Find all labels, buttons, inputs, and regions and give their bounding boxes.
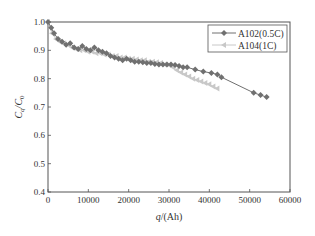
x-tick-label: 60000 bbox=[279, 195, 302, 205]
y-tick-label: 0.6 bbox=[34, 130, 46, 140]
legend-label-a102: A102(0.5C) bbox=[238, 29, 284, 40]
y-tick-label: 0.7 bbox=[34, 102, 46, 112]
capacity-retention-chart: 0100002000030000400005000060000 0.40.50.… bbox=[0, 0, 315, 236]
x-tick-label: 30000 bbox=[158, 195, 181, 205]
x-tick-label: 20000 bbox=[117, 195, 140, 205]
y-axis-label: Cq/C0 bbox=[13, 95, 26, 119]
legend-label-a104: A104(1C) bbox=[238, 41, 277, 52]
y-tick-label: 0.9 bbox=[34, 45, 46, 55]
y-tick-label: 1.0 bbox=[34, 17, 46, 27]
x-tick-label: 0 bbox=[46, 195, 51, 205]
y-tick-label: 0.4 bbox=[34, 187, 46, 197]
y-tick-label: 0.5 bbox=[34, 159, 46, 169]
x-axis-label: q/(Ah) bbox=[156, 211, 183, 223]
x-tick-label: 40000 bbox=[198, 195, 221, 205]
legend: A102(0.5C) A104(1C) bbox=[208, 25, 287, 52]
y-tick-label: 0.8 bbox=[34, 74, 46, 84]
x-axis-ticks: 0100002000030000400005000060000 bbox=[46, 189, 302, 205]
series-a104-1c- bbox=[45, 19, 219, 92]
x-tick-label: 10000 bbox=[77, 195, 100, 205]
x-tick-label: 50000 bbox=[238, 195, 261, 205]
